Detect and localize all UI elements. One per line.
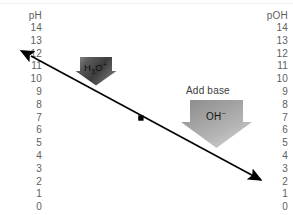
neutral-point-marker bbox=[138, 115, 143, 120]
ph-poh-figure: pH 14 13 12 11 10 9 8 7 6 5 4 3 2 1 0 pO… bbox=[0, 0, 293, 215]
hydronium-symbol: H bbox=[84, 62, 91, 73]
hydroxide-label: OH− bbox=[206, 110, 226, 122]
hydronium-charge: + bbox=[103, 61, 107, 68]
add-base-label: Add base bbox=[186, 85, 230, 96]
plot-area bbox=[0, 0, 293, 215]
hydroxide-down-arrow-icon bbox=[181, 100, 252, 148]
hydroxide-charge: − bbox=[221, 110, 225, 117]
hydronium-label: H3O+ bbox=[84, 61, 107, 75]
hydroxide-symbol: OH bbox=[206, 111, 221, 122]
hydronium-oxygen: O bbox=[95, 62, 103, 73]
